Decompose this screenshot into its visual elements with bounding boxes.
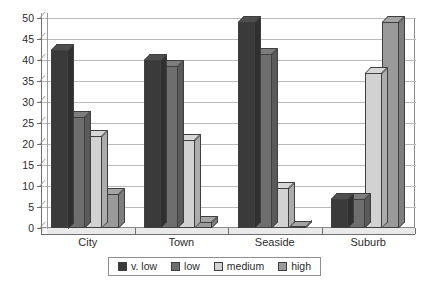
y-axis-tick-label: 35: [8, 76, 34, 86]
bar: [238, 22, 255, 228]
bar: [331, 199, 348, 228]
legend-item[interactable]: low: [171, 261, 200, 272]
bar: [51, 50, 68, 229]
bar-front-face: [289, 226, 306, 228]
y-axis-tick-label: 25: [8, 118, 34, 128]
bar: [289, 227, 306, 228]
bar: [144, 60, 161, 228]
bar-side-face: [255, 16, 261, 228]
bar-front-face: [238, 22, 255, 228]
y-axis-tick-label: 0: [8, 223, 34, 233]
x-axis-tick-mark: [228, 228, 229, 234]
y-axis-tick-label: 40: [8, 55, 34, 65]
chart-legend: v. lowlowmediumhigh: [108, 257, 321, 276]
bar-side-face: [161, 54, 167, 228]
x-axis-tick-mark: [322, 228, 323, 234]
x-axis-tick-mark: [415, 228, 416, 234]
legend-item[interactable]: high: [278, 261, 311, 272]
y-axis-tick-label: 20: [8, 139, 34, 149]
legend-swatch-icon: [171, 262, 180, 271]
bar-front-face: [331, 199, 348, 228]
bar-side-face: [348, 193, 354, 228]
bar-side-face: [178, 60, 184, 228]
x-axis-category-label: Seaside: [228, 236, 322, 248]
bar-side-face: [289, 182, 295, 228]
bar-series-layer: [41, 18, 415, 235]
x-axis-category-label: Suburb: [322, 236, 416, 248]
bar-side-face: [195, 134, 201, 228]
bar-side-face: [102, 130, 108, 228]
legend-label: low: [184, 261, 200, 272]
bar-side-face: [272, 48, 278, 228]
y-axis-tick-label: 45: [8, 34, 34, 44]
x-axis-category-label: Town: [135, 236, 229, 248]
y-axis-tick-label: 15: [8, 160, 34, 170]
bar-front-face: [144, 60, 161, 228]
legend-label: medium: [227, 261, 264, 272]
x-axis-tick-mark: [41, 228, 42, 234]
bar-front-face: [51, 50, 68, 229]
bar-side-face: [85, 111, 91, 228]
y-axis-tick-label: 50: [8, 13, 34, 23]
bar-chart: 05101520253035404550 CityTownSeasideSubu…: [0, 0, 426, 282]
legend-swatch-icon: [214, 262, 223, 271]
legend-swatch-icon: [118, 262, 127, 271]
bar-side-face: [119, 188, 125, 228]
bar-side-face: [382, 67, 388, 228]
legend-item[interactable]: medium: [214, 261, 264, 272]
y-axis-tick-label: 10: [8, 181, 34, 191]
legend-label: v. low: [131, 261, 157, 272]
legend-swatch-icon: [278, 262, 287, 271]
legend-label: high: [291, 261, 311, 272]
legend-item[interactable]: v. low: [118, 261, 157, 272]
y-axis-tick-label: 5: [8, 202, 34, 212]
x-axis-tick-mark: [135, 228, 136, 234]
bar-side-face: [365, 193, 371, 228]
bar-side-face: [399, 16, 405, 228]
bar-side-face: [68, 44, 74, 229]
x-axis-category-label: City: [41, 236, 135, 248]
y-axis-tick-label: 30: [8, 97, 34, 107]
